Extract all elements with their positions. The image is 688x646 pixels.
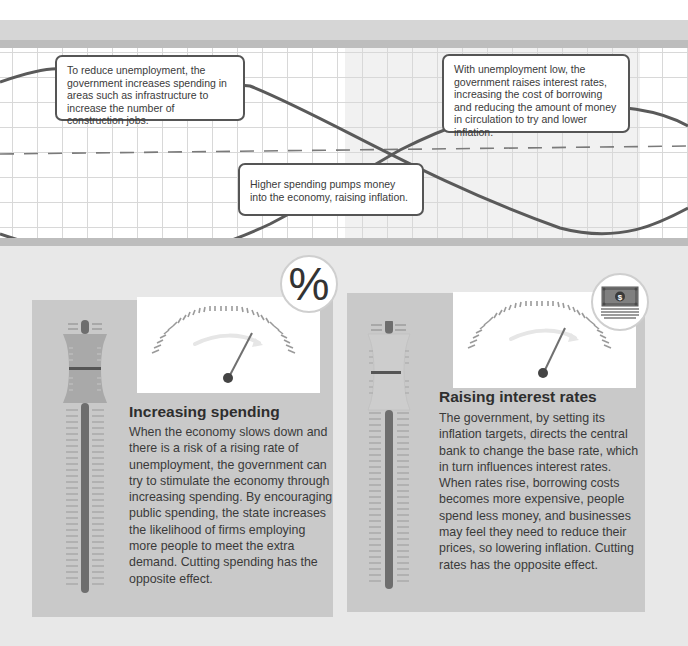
- callout-raising-inflation: Higher spending pumps money into the eco…: [238, 163, 424, 216]
- economic-cycle-chart: To reduce unemployment, the government i…: [0, 48, 688, 238]
- fader-track-top: [81, 320, 89, 334]
- panel-body: When the economy slows down and there is…: [129, 424, 334, 587]
- gauge-arrow-arc: [511, 331, 575, 339]
- dollar-symbol: $: [618, 293, 623, 302]
- gauge-pivot: [538, 368, 548, 378]
- fader-knob-indicator: [69, 367, 101, 370]
- gauge-pivot: [223, 373, 233, 383]
- gauge-ticks: [468, 301, 611, 348]
- banknote-stack-icon: $: [591, 273, 649, 331]
- panel-increasing-spending: % Increasing spending When the economy s…: [32, 300, 333, 617]
- callout-text: With unemployment low, the government ra…: [454, 63, 616, 138]
- panel-raising-interest-rates: $ Raising interest rates The government,…: [347, 293, 645, 612]
- gauge-needle: [544, 328, 565, 372]
- panel-title: Raising interest rates: [439, 388, 597, 406]
- callout-text: Higher spending pumps money into the eco…: [250, 178, 408, 203]
- header-stripe: [0, 40, 688, 48]
- dashed-baseline: [0, 146, 688, 154]
- chart-bottom-stripe: [0, 238, 688, 246]
- panel-body: The government, by setting its inflation…: [439, 410, 644, 573]
- gauge-meter: [137, 297, 320, 393]
- percent-symbol: %: [289, 261, 330, 307]
- panel-title: Increasing spending: [129, 403, 280, 421]
- page-top-margin: [0, 0, 688, 20]
- fader-track: [81, 403, 89, 593]
- header-band: [0, 20, 688, 40]
- gauge-needle: [229, 333, 252, 377]
- callout-raise-interest-rates: With unemployment low, the government ra…: [442, 54, 630, 133]
- fader-track: [385, 410, 393, 589]
- fader-knob-indicator: [371, 371, 401, 374]
- gauge-ticks: [152, 306, 295, 353]
- callout-text: To reduce unemployment, the government i…: [67, 64, 227, 126]
- fader-track-top: [385, 321, 393, 334]
- callout-reduce-unemployment: To reduce unemployment, the government i…: [55, 55, 245, 121]
- percent-icon: %: [280, 255, 338, 313]
